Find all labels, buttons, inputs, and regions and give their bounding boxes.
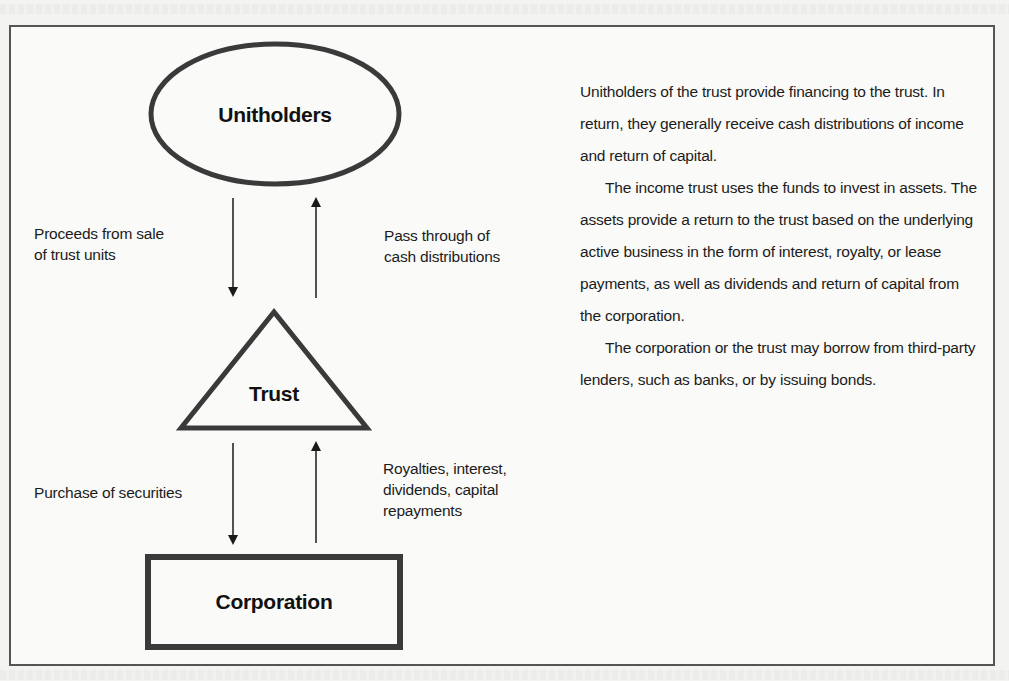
- corporation-label: Corporation: [216, 590, 333, 614]
- description-paragraph: The corporation or the trust may borrow …: [580, 332, 980, 396]
- description-text: Unitholders of the trust provide financi…: [580, 76, 980, 396]
- edge-label-royalties: Royalties, interest, dividends, capital …: [383, 458, 507, 521]
- edge-label-pass-through: Pass through of cash distributions: [384, 225, 500, 267]
- edge-label-proceeds: Proceeds from sale of trust units: [34, 223, 164, 265]
- description-paragraph: The income trust uses the funds to inves…: [580, 172, 980, 332]
- trust-triangle: [181, 312, 367, 428]
- edge-label-purchase: Purchase of securities: [34, 482, 182, 503]
- description-paragraph: Unitholders of the trust provide financi…: [580, 76, 980, 172]
- trust-label: Trust: [249, 382, 299, 406]
- unitholders-label: Unitholders: [218, 103, 331, 127]
